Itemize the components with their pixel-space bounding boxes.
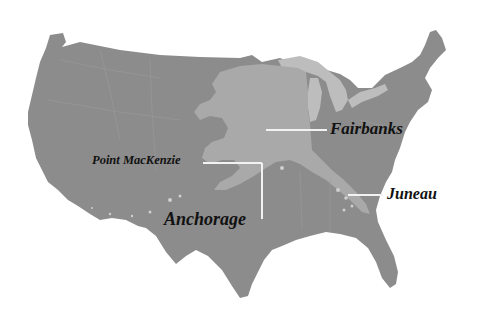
point-mackenzie-label: Point MacKenzie: [92, 154, 181, 167]
fairbanks-label: Fairbanks: [330, 120, 403, 137]
map-container: Fairbanks Point MacKenzie Anchorage June…: [0, 0, 478, 310]
us-alaska-map: [0, 0, 478, 310]
juneau-label: Juneau: [387, 186, 437, 202]
anchorage-label: Anchorage: [164, 210, 246, 228]
